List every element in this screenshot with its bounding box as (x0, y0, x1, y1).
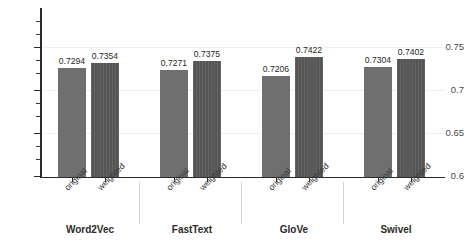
group-label-glove: GloVe (252, 225, 336, 235)
y-tick-065 (34, 133, 41, 134)
group-label-swivel: Swivel (354, 225, 438, 235)
y-tick-label-075: 0.75 (432, 42, 464, 52)
y-tick-minor (36, 103, 41, 104)
bar-word2vec-weighted[interactable] (91, 63, 119, 177)
y-tick-minor (36, 73, 41, 74)
y-tick-060 (34, 176, 41, 177)
group-separator (343, 182, 344, 224)
bar-swivel-weighted[interactable] (397, 59, 425, 177)
bar-word2vec-original[interactable] (58, 68, 86, 177)
gridline-075 (42, 47, 445, 48)
y-tick-minor (36, 146, 41, 147)
y-tick-minor (36, 21, 41, 22)
y-tick-label-065: 0.65 (432, 128, 464, 138)
group-separator (139, 182, 140, 224)
bar-fasttext-original[interactable] (160, 70, 188, 177)
y-tick-minor (36, 116, 41, 117)
bar-chart: 0.75 0.7 0.65 0.6 0.7294 0.7354 original… (0, 0, 464, 247)
y-tick-minor (36, 159, 41, 160)
bar-value-word2vec-weighted: 0.7354 (81, 52, 129, 61)
bar-value-swivel-original: 0.7304 (354, 56, 402, 65)
y-tick-label-060: 0.6 (432, 171, 464, 181)
group-label-word2vec: Word2Vec (48, 225, 132, 235)
bar-glove-weighted[interactable] (295, 57, 323, 177)
y-tick-070 (34, 90, 41, 91)
y-tick-075 (34, 47, 41, 48)
y-tick-minor (36, 34, 41, 35)
bar-value-fasttext-original: 0.7271 (150, 59, 198, 68)
bar-value-glove-original: 0.7206 (252, 65, 300, 74)
bar-value-swivel-weighted: 0.7402 (387, 48, 435, 57)
group-label-fasttext: FastText (150, 225, 234, 235)
bar-value-fasttext-weighted: 0.7375 (183, 50, 231, 59)
bar-value-glove-weighted: 0.7422 (285, 46, 333, 55)
group-separator (241, 182, 242, 224)
bar-fasttext-weighted[interactable] (193, 61, 221, 177)
bar-swivel-original[interactable] (364, 67, 392, 177)
y-tick-label-070: 0.7 (432, 85, 464, 95)
bar-glove-original[interactable] (262, 76, 290, 177)
y-tick-minor (36, 60, 41, 61)
